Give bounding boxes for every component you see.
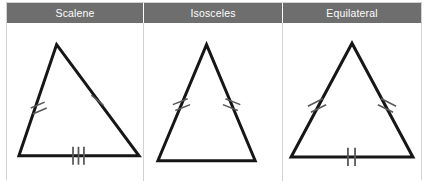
column-header-isosceles: Isosceles xyxy=(144,3,283,23)
scalene-triangle-outline xyxy=(19,45,139,156)
scalene-triangle-figure xyxy=(7,23,143,181)
table-header-row: Scalene Isosceles Equilateral xyxy=(7,3,421,23)
equilateral-triangle-figure xyxy=(283,23,421,181)
column-header-equilateral: Equilateral xyxy=(283,3,421,23)
cell-scalene-figure xyxy=(7,23,144,181)
column-header-scalene: Scalene xyxy=(7,3,144,23)
table-body-row xyxy=(7,23,421,181)
equilateral-triangle-outline xyxy=(291,43,413,157)
isosceles-triangle-figure xyxy=(144,23,282,181)
cell-isosceles-figure xyxy=(144,23,283,181)
isosceles-triangle-outline xyxy=(158,45,255,161)
cell-equilateral-figure xyxy=(283,23,421,181)
comparison-table: Scalene Isosceles Equilateral xyxy=(6,2,422,180)
triangle-types-diagram: Scalene Isosceles Equilateral xyxy=(0,0,428,186)
